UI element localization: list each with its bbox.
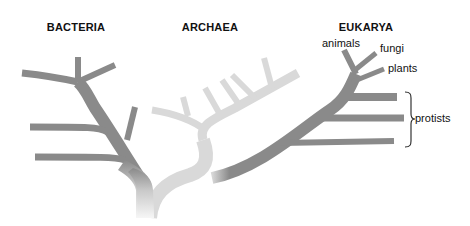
fungi-label: fungi [380, 42, 404, 54]
bacteria-label: BACTERIA [47, 21, 105, 33]
tree-of-life-diagram [0, 0, 470, 226]
eukarya-branches [212, 50, 404, 178]
protists-brace [405, 92, 415, 147]
archaea-branches [150, 58, 298, 218]
eukarya-label: EUKARYA [339, 21, 393, 33]
protists-label: protists [415, 112, 450, 124]
bacteria-branches [22, 57, 138, 175]
archaea-label: ARCHAEA [182, 21, 238, 33]
plants-label: plants [388, 62, 417, 74]
animals-label: animals [322, 37, 360, 49]
